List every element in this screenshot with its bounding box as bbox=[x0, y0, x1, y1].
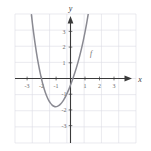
y-tick-label-1: 1 bbox=[63, 60, 66, 66]
x-tick-label-2: 2 bbox=[98, 83, 101, 89]
x-tick-label-neg1: -1 bbox=[54, 83, 59, 89]
y-tick-label-neg2: -2 bbox=[62, 107, 67, 113]
x-tick-label-3: 3 bbox=[113, 83, 116, 89]
graph-figure: -3 -2 -1 1 2 3 3 2 1 -1 -2 -3 y x f bbox=[0, 0, 151, 151]
y-axis-label: y bbox=[68, 4, 73, 13]
y-tick-label-neg3: -3 bbox=[62, 123, 67, 129]
coordinate-plot: -3 -2 -1 1 2 3 3 2 1 -1 -2 -3 y x f bbox=[0, 0, 151, 151]
x-tick-label-neg3: -3 bbox=[25, 83, 30, 89]
y-tick-label-2: 2 bbox=[63, 44, 66, 50]
y-tick-label-3: 3 bbox=[63, 29, 66, 35]
x-axis-label: x bbox=[137, 75, 142, 84]
x-tick-label-1: 1 bbox=[84, 83, 87, 89]
